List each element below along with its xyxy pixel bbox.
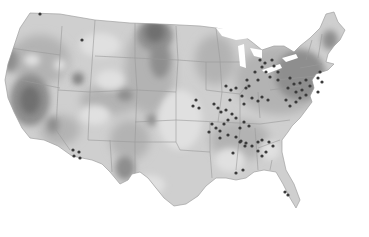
map-point-marker	[286, 86, 289, 89]
map-point-marker	[226, 133, 229, 136]
map-point-marker	[38, 12, 41, 15]
map-point-marker	[256, 149, 259, 152]
map-point-marker	[228, 98, 231, 101]
map-point-marker	[231, 151, 234, 154]
map-point-marker	[272, 64, 275, 67]
map-point-marker	[268, 75, 271, 78]
map-point-marker	[253, 70, 256, 73]
map-point-marker	[218, 129, 221, 132]
map-svg	[0, 0, 369, 237]
map-point-marker	[78, 156, 81, 159]
map-point-marker	[224, 84, 227, 87]
map-point-marker	[194, 98, 197, 101]
map-point-marker	[283, 190, 286, 193]
map-point-marker	[212, 102, 215, 105]
map-point-marker	[197, 106, 200, 109]
map-point-marker	[260, 138, 263, 141]
map-point-marker	[256, 99, 259, 102]
map-point-marker	[234, 116, 237, 119]
map-point-marker	[256, 78, 259, 81]
map-point-marker	[243, 144, 246, 147]
map-point-marker	[288, 76, 291, 79]
map-point-marker	[266, 98, 269, 101]
map-point-marker	[294, 100, 297, 103]
map-point-marker	[298, 81, 301, 84]
map-point-marker	[260, 65, 263, 68]
map-point-marker	[230, 112, 233, 115]
map-point-marker	[260, 95, 263, 98]
map-point-marker	[267, 140, 270, 143]
map-point-marker	[234, 135, 237, 138]
map-point-marker	[250, 144, 253, 147]
map-point-marker	[219, 110, 222, 113]
map-point-marker	[318, 70, 321, 73]
map-point-marker	[320, 80, 323, 83]
map-point-marker	[292, 82, 295, 85]
map-point-marker	[250, 96, 253, 99]
map-point-marker	[216, 106, 219, 109]
map-point-marker	[77, 150, 80, 153]
map-point-marker	[244, 141, 247, 144]
map-point-marker	[271, 144, 274, 147]
map-point-marker	[288, 104, 291, 107]
map-point-marker	[238, 126, 241, 129]
map-point-marker	[316, 76, 319, 79]
map-point-marker	[218, 136, 221, 139]
map-point-marker	[80, 38, 83, 41]
map-point-marker	[260, 154, 263, 157]
map-point-marker	[304, 93, 307, 96]
map-point-marker	[276, 78, 279, 81]
map-point-marker	[222, 122, 225, 125]
us-map	[0, 0, 369, 237]
map-point-marker	[72, 154, 75, 157]
map-point-marker	[286, 193, 289, 196]
map-point-marker	[229, 88, 232, 91]
map-point-marker	[240, 94, 243, 97]
map-point-marker	[264, 150, 267, 153]
map-point-marker	[234, 171, 237, 174]
map-point-marker	[258, 58, 261, 61]
map-point-marker	[191, 104, 194, 107]
map-point-marker	[244, 86, 247, 89]
map-point-marker	[294, 90, 297, 93]
map-point-marker	[239, 139, 242, 142]
map-point-marker	[298, 96, 301, 99]
map-point-marker	[224, 108, 227, 111]
map-point-marker	[263, 61, 266, 64]
map-point-marker	[214, 126, 217, 129]
map-point-marker	[304, 78, 307, 81]
map-point-marker	[276, 70, 279, 73]
map-point-marker	[234, 86, 237, 89]
map-point-marker	[207, 130, 210, 133]
map-point-marker	[247, 84, 250, 87]
map-point-marker	[210, 122, 213, 125]
map-point-marker	[270, 58, 273, 61]
map-point-marker	[226, 118, 229, 121]
map-point-marker	[71, 148, 74, 151]
map-point-marker	[316, 90, 319, 93]
map-point-marker	[242, 120, 245, 123]
map-point-marker	[264, 70, 267, 73]
map-point-marker	[245, 78, 248, 81]
map-point-marker	[300, 88, 303, 91]
map-point-marker	[247, 124, 250, 127]
map-point-marker	[308, 84, 311, 87]
map-point-marker	[242, 102, 245, 105]
map-point-marker	[256, 140, 259, 143]
map-point-marker	[284, 98, 287, 101]
map-point-marker	[241, 168, 244, 171]
